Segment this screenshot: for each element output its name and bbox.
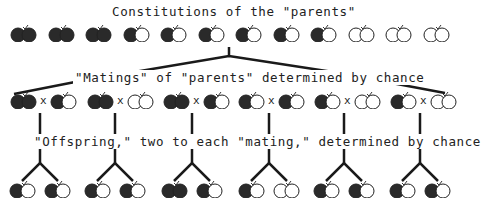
gene-pair-icon-offspring-Bw (422, 180, 456, 198)
cross-symbol: x (40, 94, 47, 107)
gene-pair-icon-parent-ww (346, 24, 380, 42)
gene-pair-icon-parent-Bw (158, 24, 192, 42)
gene-pair-icon-parent-BB (8, 24, 42, 42)
gene-pair-icon-parent-Bw (233, 24, 267, 42)
gene-pair-icon-offspring-Bw (236, 180, 270, 198)
title-constitutions: Constitutions of the "parents" (110, 4, 358, 19)
gene-pair-icon-offspring-Bw (387, 180, 421, 198)
gene-pair-icon-parent-Bw (308, 24, 342, 42)
gene-pair-icon-mating-BB (161, 91, 195, 109)
gene-pair-icon-parent-ww (383, 24, 417, 42)
gene-pair-icon-offspring-Bw (346, 180, 380, 198)
cross-symbol: x (268, 94, 275, 107)
gene-pair-icon-mating-BB (8, 91, 42, 109)
gene-pair-icon-parent-BB (83, 24, 117, 42)
cross-symbol: x (117, 94, 124, 107)
gene-pair-icon-parent-ww (421, 24, 455, 42)
gene-pair-icon-mating-Bw (312, 91, 346, 109)
cross-symbol: x (420, 94, 427, 107)
gene-pair-icon-offspring-Bw (42, 180, 76, 198)
gene-pair-icon-parent-BB (46, 24, 80, 42)
gene-pair-icon-mating-Bw (48, 91, 82, 109)
cross-symbol: x (193, 94, 200, 107)
gene-pair-icon-parent-Bw (271, 24, 305, 42)
gene-pair-icon-parent-Bw (196, 24, 230, 42)
gene-pair-icon-offspring-Bw (117, 180, 151, 198)
gene-pair-icon-mating-Bw (236, 91, 270, 109)
gene-pair-icon-mating-Bw (201, 91, 235, 109)
gene-pair-icon-mating-ww (352, 91, 386, 109)
gene-pair-icon-offspring-Bw (194, 180, 228, 198)
gene-pair-icon-mating-Bw (388, 91, 422, 109)
gene-pair-icon-mating-ww (428, 91, 462, 109)
gene-pair-icon-offspring-BB (159, 180, 193, 198)
gene-pair-icon-offspring-ww (271, 180, 305, 198)
gene-pair-icon-offspring-Bw (7, 180, 41, 198)
label-matings: "Matings" of "parents" determined by cha… (73, 70, 426, 85)
gene-pair-icon-offspring-Bw (82, 180, 116, 198)
gene-pair-icon-offspring-Bw (311, 180, 345, 198)
cross-symbol: x (344, 94, 351, 107)
gene-pair-icon-mating-Bw (276, 91, 310, 109)
gene-pair-icon-parent-Bw (121, 24, 155, 42)
gene-pair-icon-mating-ww (125, 91, 159, 109)
gene-pair-icon-mating-BB (85, 91, 119, 109)
label-offspring: "Offspring," two to each "mating," deter… (32, 134, 483, 149)
